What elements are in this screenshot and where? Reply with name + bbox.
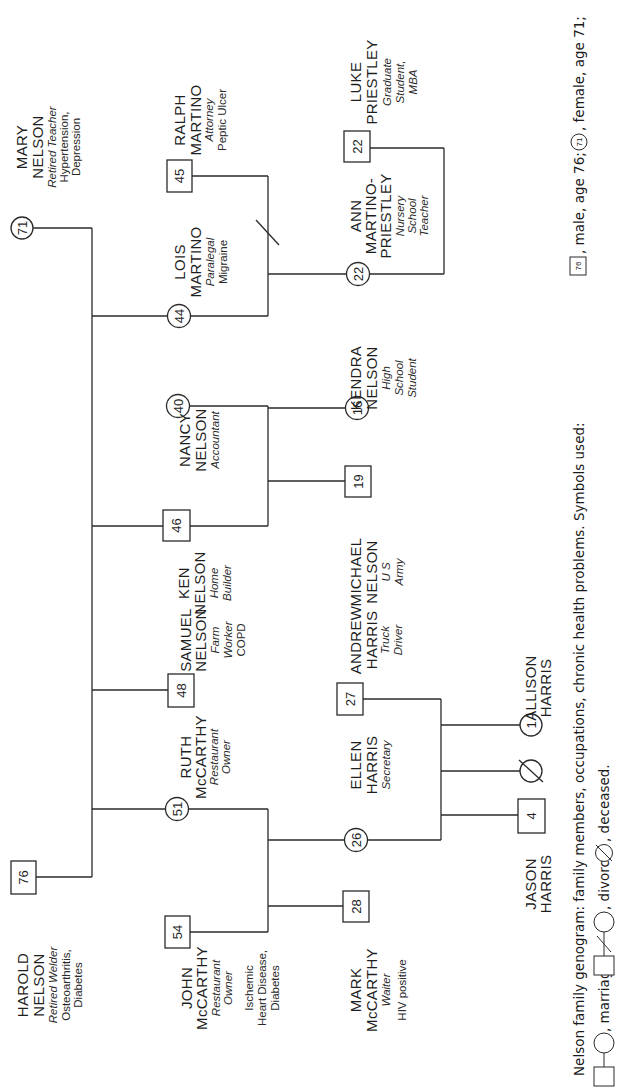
occupation-text: Nursery <box>394 195 406 237</box>
occupation-text: Farm <box>209 626 221 653</box>
person-mary-nelson-symbol: 71 <box>11 217 33 239</box>
label-samuel-nelson: SAMUEL NELSON Farm Worker COPD <box>177 608 247 672</box>
person-jason-harris-symbol: 4 <box>518 799 545 833</box>
health-text: Depression <box>70 118 82 176</box>
caption-line-1: Nelson family genogram: family members, … <box>571 422 587 1076</box>
name-line: ELLEN <box>347 740 364 789</box>
name-line: MARK <box>347 968 364 1013</box>
occupation-text: Builder <box>221 564 233 601</box>
health-text: COPD <box>235 623 247 656</box>
label-luke-priestley: LUKE PRIESTLEY Graduate Student, MBA <box>347 39 419 124</box>
age-label: 4 <box>524 812 539 819</box>
caption-male-text: , male, age 76; <box>571 152 587 254</box>
figure-caption: Nelson family genogram: family members, … <box>570 16 614 1086</box>
person-ralph-martino-symbol: 45 <box>167 160 192 192</box>
label-ken-nelson: KEN NELSON Home Builder <box>175 551 233 615</box>
genogram-figure: 71 76 45 44 22 22 40 16 46 19 <box>0 0 620 1090</box>
name-line: McCARTHY <box>192 715 209 799</box>
age-label: 46 <box>169 518 184 532</box>
health-text: Hypertension, <box>58 112 70 183</box>
age-label: 40 <box>171 399 186 413</box>
health-text: Osteoarthritis, <box>60 949 72 1021</box>
name-line: KEN <box>175 567 192 599</box>
name-line: MICHAEL <box>347 538 364 607</box>
health-text: Heart Disease, <box>256 950 268 1026</box>
label-allison-harris: ALLISON HARRIS <box>522 655 554 720</box>
name-line: MARTINO <box>187 227 204 298</box>
label-mary-nelson: MARY NELSON Retired Teacher Hypertension… <box>13 105 82 188</box>
occupation-text: Student <box>406 357 418 397</box>
occupation-text: Restaurant <box>208 728 220 785</box>
occupation-text: Owner <box>220 739 232 774</box>
name-line: PRIESTLEY <box>363 39 380 124</box>
person-ruth-mccarthy-symbol: 51 <box>166 798 189 821</box>
person-samuel-nelson-symbol: 48 <box>168 674 194 707</box>
person-michael-nelson-symbol: 19 <box>345 466 371 497</box>
person-andrew-harris-symbol: 27 <box>337 683 363 715</box>
person-ann-martino-priestley-symbol: 22 <box>347 263 370 286</box>
age-label: 19 <box>351 474 366 488</box>
caption-deceased-text: , deceased. <box>596 764 612 842</box>
person-lois-martino-symbol: 44 <box>168 305 191 328</box>
person-deceased-child-symbol <box>519 760 543 782</box>
occupation-text: Retired Welder <box>47 946 59 1024</box>
person-luke-priestley-symbol: 22 <box>344 131 370 162</box>
label-mark-mccarthy: MARK McCARTHY Waiter HIV positive <box>347 948 408 1032</box>
legend-divorce-icon <box>594 912 614 975</box>
label-ellen-harris: ELLEN HARRIS Secretary <box>347 736 392 794</box>
age-label: 28 <box>349 899 364 913</box>
person-ken-nelson-symbol: 46 <box>163 510 190 541</box>
health-text: Diabetes <box>72 962 84 1008</box>
occupation-text: U S <box>380 562 392 582</box>
occupation-text: Graduate <box>381 58 393 106</box>
label-andrew-harris: ANDREW HARRIS Truck Driver <box>347 605 404 674</box>
health-text: Migraine <box>217 240 229 284</box>
name-line: MARY <box>13 125 30 169</box>
health-text: Diabetes <box>269 965 281 1011</box>
age-label: 71 <box>15 221 30 235</box>
name-line: LUKE <box>347 62 364 102</box>
occupation-text: School <box>406 198 418 234</box>
age-label: 1 <box>524 721 539 728</box>
label-nancy-nelson: NANCY NELSON Accountant <box>176 408 221 472</box>
person-john-mccarthy-symbol: 54 <box>165 916 190 948</box>
label-lois-martino: LOIS MARTINO Paralegal Migraine <box>171 227 229 298</box>
person-ellen-harris-symbol: 26 <box>345 829 368 852</box>
legend-marriage-icon <box>594 1033 614 1086</box>
age-label: 44 <box>172 309 187 323</box>
caption-female-text: , female, age 71; <box>571 16 587 131</box>
name-line: PRIESTLEY <box>377 173 394 258</box>
age-label: 22 <box>351 267 366 281</box>
age-label: 27 <box>343 692 358 706</box>
name-line: NELSON <box>191 551 208 615</box>
label-ralph-martino: RALPH MARTINO Attorney Peptic Ulcer <box>171 85 228 156</box>
label-jason-harris: JASON HARRIS <box>522 855 554 913</box>
occupation-text: Retired Teacher <box>46 105 58 188</box>
name-line: NELSON <box>363 540 380 604</box>
name-line: NELSON <box>29 115 46 179</box>
name-line: ANDREW <box>347 605 364 674</box>
occupation-text: Teacher <box>418 194 430 236</box>
age-label: 26 <box>349 833 364 847</box>
genogram-canvas: 71 76 45 44 22 22 40 16 46 19 <box>0 0 620 1090</box>
label-harold-nelson: HAROLD NELSON Retired Welder Osteoarthri… <box>14 946 84 1024</box>
occupation-text: Secretary <box>380 739 392 789</box>
name-line: HARRIS <box>537 659 554 717</box>
name-line: McCARTHY <box>363 948 380 1032</box>
occupation-text: MBA <box>407 69 419 94</box>
legend-male-icon: 76 <box>570 257 586 275</box>
name-line: MARTINO <box>187 85 204 156</box>
occupation-text: Attorney <box>203 97 215 142</box>
name-line: KENDRA <box>347 346 364 410</box>
health-text: HIV positive <box>396 959 408 1020</box>
occupation-text: Home <box>208 568 220 599</box>
occupation-text: Student, <box>394 61 406 104</box>
name-line: RALPH <box>171 94 188 146</box>
health-text: Ischemic <box>243 965 255 1011</box>
label-john-mccarthy: JOHN McCARTHY Restaurant Owner Ischemic … <box>178 946 281 1030</box>
person-mark-mccarthy-symbol: 28 <box>343 891 369 922</box>
label-kendra-nelson: KENDRA NELSON High School Student <box>347 346 418 410</box>
name-line: NELSON <box>192 408 209 472</box>
occupation-text: High <box>380 366 392 390</box>
name-line: HARRIS <box>363 736 380 794</box>
